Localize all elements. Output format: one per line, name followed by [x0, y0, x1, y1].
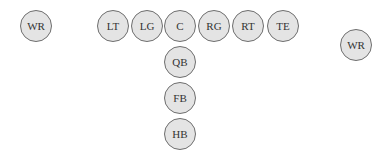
- player-label: QB: [172, 56, 187, 68]
- player-qb: QB: [164, 46, 196, 78]
- player-te: TE: [267, 10, 299, 42]
- player-label: RT: [241, 20, 254, 32]
- player-label: HB: [172, 128, 187, 140]
- player-rt: RT: [232, 10, 264, 42]
- player-label: TE: [276, 20, 289, 32]
- player-hb: HB: [164, 118, 196, 150]
- player-label: WR: [347, 39, 365, 51]
- player-lg: LG: [131, 10, 163, 42]
- player-lt: LT: [97, 10, 129, 42]
- player-fb: FB: [164, 82, 196, 114]
- player-label: LT: [107, 20, 119, 32]
- player-wr-left: WR: [20, 10, 52, 42]
- player-label: WR: [27, 20, 45, 32]
- player-c: C: [164, 10, 196, 42]
- player-wr-right: WR: [340, 29, 372, 61]
- player-label: LG: [140, 20, 155, 32]
- player-label: RG: [206, 20, 221, 32]
- player-label: C: [176, 20, 183, 32]
- player-label: FB: [173, 92, 186, 104]
- player-rg: RG: [198, 10, 230, 42]
